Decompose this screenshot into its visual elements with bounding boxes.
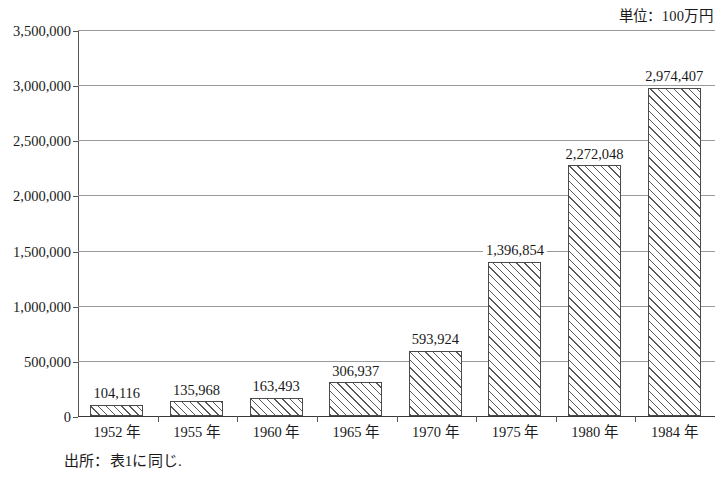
bar: 135,968 — [170, 401, 223, 416]
x-axis-category-label: 1955 年 — [173, 424, 220, 441]
y-axis-tick-label: 2,500,000 — [13, 134, 71, 149]
x-axis-category-label: 1970 年 — [412, 424, 459, 441]
x-axis-category-label: 1984 年 — [651, 424, 698, 441]
x-axis-tick-mark — [317, 416, 318, 422]
bar-value-label: 104,116 — [91, 385, 144, 402]
bar: 104,116 — [90, 405, 143, 416]
bar-series: 104,116135,968163,493306,937593,9241,396… — [78, 30, 715, 416]
y-axis-tick-label: 500,000 — [24, 355, 71, 370]
bar: 2,272,048 — [568, 165, 621, 416]
y-axis-tick-label: 1,000,000 — [13, 299, 71, 314]
x-axis-labels: 1952 年1955 年1960 年1965 年1970 年1975 年1980… — [78, 424, 715, 446]
bar-chart-figure: 単位：100万円 0500,0001,000,0001,500,0002,000… — [0, 0, 721, 477]
y-axis-tick-mark — [73, 417, 78, 418]
bar: 2,974,407 — [648, 88, 701, 416]
source-note: 出所：表1に同じ. — [64, 449, 182, 470]
bar: 593,924 — [409, 351, 462, 417]
y-axis-tick-label: 3,000,000 — [13, 79, 71, 94]
y-axis-tick-label: 0 — [64, 410, 71, 425]
x-axis-tick-mark — [635, 416, 636, 422]
bar-value-label: 2,272,048 — [563, 146, 627, 163]
bar-value-label: 593,924 — [409, 331, 462, 348]
x-axis-category-label: 1960 年 — [253, 424, 300, 441]
x-axis-category-label: 1952 年 — [94, 424, 141, 441]
x-axis-category-label: 1975 年 — [492, 424, 539, 441]
y-axis-tick-label: 3,500,000 — [13, 24, 71, 39]
x-axis-tick-mark — [556, 416, 557, 422]
x-axis-tick-mark — [476, 416, 477, 422]
bar-value-label: 163,493 — [250, 378, 303, 395]
y-axis-tick-label: 1,500,000 — [13, 244, 71, 259]
x-axis-tick-mark — [158, 416, 159, 422]
plot-area: 0500,0001,000,0001,500,0002,000,0002,500… — [78, 30, 715, 416]
bar-value-label: 135,968 — [170, 382, 223, 399]
x-axis-category-label: 1980 年 — [571, 424, 618, 441]
bar: 306,937 — [329, 382, 382, 416]
y-axis-tick-label: 2,000,000 — [13, 189, 71, 204]
x-axis-tick-mark — [397, 416, 398, 422]
x-axis-category-label: 1965 年 — [332, 424, 379, 441]
bar: 163,493 — [250, 398, 303, 416]
bar-value-label: 306,937 — [329, 363, 382, 380]
bar-value-label: 1,396,854 — [483, 242, 547, 259]
x-axis-tick-mark — [237, 416, 238, 422]
bar-value-label: 2,974,407 — [642, 68, 706, 85]
bar: 1,396,854 — [488, 262, 541, 416]
unit-note: 単位：100万円 — [619, 4, 713, 25]
